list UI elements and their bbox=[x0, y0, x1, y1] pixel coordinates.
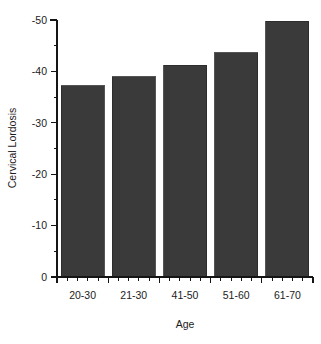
y-tick-label: 0 bbox=[41, 271, 47, 283]
x-tick-label: 20-30 bbox=[69, 289, 96, 301]
y-tick-label: -20 bbox=[32, 168, 47, 180]
bar bbox=[164, 65, 207, 277]
bar bbox=[61, 86, 104, 277]
y-tick-label: -50 bbox=[32, 14, 47, 26]
x-axis-title: Age bbox=[176, 318, 195, 330]
y-axis-title: Cervical Lordosis bbox=[6, 108, 18, 189]
y-tick-label: -10 bbox=[32, 219, 47, 231]
y-tick-label: -40 bbox=[32, 65, 47, 77]
x-tick-label: 61-70 bbox=[274, 289, 301, 301]
bar bbox=[112, 77, 155, 278]
y-tick-label: -30 bbox=[32, 117, 47, 129]
bar bbox=[266, 21, 309, 277]
bar-chart: 0-10-20-30-40-50 20-3021-3041-5051-6061-… bbox=[0, 0, 321, 344]
chart-figure: 0-10-20-30-40-50 20-3021-3041-5051-6061-… bbox=[0, 0, 321, 344]
x-tick-label: 21-30 bbox=[120, 289, 147, 301]
bar bbox=[215, 53, 258, 277]
x-tick-label: 51-60 bbox=[223, 289, 250, 301]
x-tick-label: 41-50 bbox=[172, 289, 199, 301]
